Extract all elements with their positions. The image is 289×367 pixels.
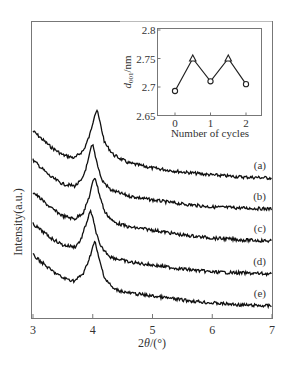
inset-y-tick-label: 2.65 (136, 110, 156, 122)
x-tick-label: 5 (150, 323, 156, 337)
x-tick-label: 4 (90, 323, 96, 337)
x-tick-label: 6 (209, 323, 215, 337)
series-labels: (a)(b)(c)(d)(e) (253, 159, 266, 300)
series-label: (c) (254, 222, 267, 235)
main-y-axis-label: Intensity(a.u.) (11, 188, 25, 255)
inset-y-tick-label: 2.8 (142, 24, 156, 36)
series-label: (d) (253, 255, 266, 268)
xrd-trace-e (33, 242, 271, 307)
circle-marker-icon (243, 82, 248, 87)
xrd-trace-c (33, 179, 271, 243)
circle-marker-icon (172, 88, 177, 93)
series-label: (e) (254, 287, 267, 300)
inset-y-axis-label: d001/nm (121, 55, 135, 89)
x-tick-label: 3 (30, 323, 36, 337)
xrd-trace-d (33, 211, 271, 276)
circle-marker-icon (208, 79, 213, 84)
inset-y-tick-label: 2.75 (136, 53, 156, 65)
x-tick-label: 7 (269, 323, 275, 337)
inset-x-axis-label: Number of cycles (171, 127, 249, 139)
xrd-chart: 34567 (a)(b)(c)(d)(e) 2θ/(°) Intensity(a… (0, 0, 289, 367)
series-label: (a) (254, 159, 267, 172)
inset-y-tick-label: 2.7 (142, 81, 156, 93)
main-x-ticks: 34567 (30, 314, 275, 337)
series-label: (b) (253, 190, 266, 203)
main-x-axis-label: 2θ/(°) (138, 336, 166, 350)
